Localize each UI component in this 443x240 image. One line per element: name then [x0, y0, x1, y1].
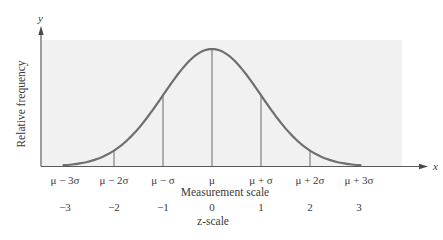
measurement-tick-label: μ − σ [151, 174, 175, 186]
measurement-tick-label: μ + σ [249, 174, 273, 186]
y-axis-arrow-icon [38, 26, 43, 35]
measurement-tick-label: μ + 2σ [295, 174, 324, 186]
measurement-tick-labels: μ − 3σμ − 2σμ − σμμ + σμ + 2σμ + 3σ [50, 174, 373, 186]
normal-distribution-chart: y x Relative frequency μ − 3σμ − 2σμ − σ… [0, 0, 443, 240]
x-axis-symbol: x [432, 160, 438, 172]
z-tick-label: 2 [307, 201, 313, 213]
x-axis-arrow-icon [419, 164, 428, 169]
y-axis-symbol: y [37, 12, 43, 24]
plot-panel [42, 40, 402, 166]
y-axis-label: Relative frequency [15, 60, 28, 147]
measurement-tick-label: μ − 3σ [50, 174, 79, 186]
measurement-tick-label: μ − 2σ [99, 174, 128, 186]
measurement-tick-label: μ [209, 174, 215, 186]
z-tick-label: 3 [356, 201, 362, 213]
z-scale-tick-labels: −3−2−10123 [59, 201, 362, 213]
z-tick-label: 0 [209, 201, 215, 213]
x-axis-label: Measurement scale [181, 186, 269, 198]
measurement-tick-label: μ + 3σ [344, 174, 373, 186]
z-tick-label: −3 [59, 201, 71, 213]
z-scale-label: z-scale [197, 215, 229, 227]
z-tick-label: 1 [258, 201, 264, 213]
z-tick-label: −2 [108, 201, 120, 213]
z-tick-label: −1 [157, 201, 169, 213]
